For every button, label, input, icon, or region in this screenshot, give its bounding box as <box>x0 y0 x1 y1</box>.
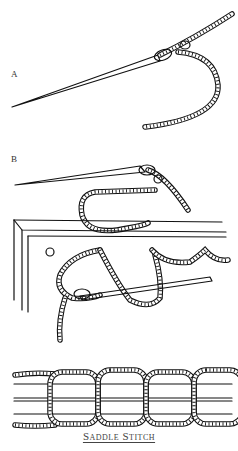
stitch-in-leather <box>59 250 228 340</box>
leather-layers <box>14 220 226 312</box>
figure-caption: Saddle Stitch <box>0 430 238 442</box>
panel-label-b: B <box>11 154 17 164</box>
finished-stitch <box>14 370 238 426</box>
panel-a-needle <box>12 14 232 127</box>
saddle-stitch-illustration <box>0 0 238 451</box>
panel-label-a: A <box>11 69 18 79</box>
